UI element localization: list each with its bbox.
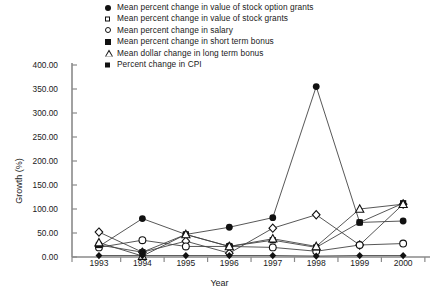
data-point <box>139 215 146 222</box>
legend-item-label: Mean percent change in value of stock gr… <box>117 13 288 24</box>
data-point <box>400 218 407 225</box>
data-point <box>357 219 363 225</box>
plot-area: Growth (%) 0.0050.00100.00150.00200.0025… <box>0 58 439 298</box>
legend-item: Mean percent change in short term bonus <box>104 36 314 47</box>
x-tick-label: 2000 <box>381 258 425 268</box>
x-axis-label: Year <box>0 278 439 288</box>
x-tick-label: 1996 <box>207 258 251 268</box>
data-point <box>269 224 277 232</box>
x-tick-label: 1995 <box>164 258 208 268</box>
filled-circle-icon <box>104 2 117 13</box>
x-tick-label: 1993 <box>77 258 121 268</box>
legend-item-label: Mean percent change in short term bonus <box>117 36 274 47</box>
x-tick-label: 1998 <box>294 258 338 268</box>
data-point <box>356 242 363 249</box>
x-tick-label: 1997 <box>251 258 295 268</box>
chart-figure: Mean percent change in value of stock op… <box>0 0 439 298</box>
data-point <box>269 244 276 251</box>
filled-square-icon <box>104 36 117 47</box>
data-point <box>312 211 320 219</box>
x-tick-label: 1994 <box>120 258 164 268</box>
legend-item: Mean percent change in value of stock op… <box>104 2 314 13</box>
data-point <box>139 237 146 244</box>
data-point <box>95 228 103 236</box>
data-point <box>226 224 233 231</box>
open-circle-icon <box>104 25 117 36</box>
legend-item: Mean percent change in salary <box>104 25 314 36</box>
x-tick-label: 1999 <box>338 258 382 268</box>
legend-item-label: Mean percent change in value of stock op… <box>117 2 314 13</box>
data-point <box>400 240 407 247</box>
data-point <box>313 83 320 90</box>
legend-item-label: Mean percent change in salary <box>117 25 233 36</box>
legend-item: Mean percent change in value of stock gr… <box>104 13 314 24</box>
data-point <box>182 243 189 250</box>
open-diamond-icon <box>104 13 117 24</box>
data-point <box>269 214 276 221</box>
